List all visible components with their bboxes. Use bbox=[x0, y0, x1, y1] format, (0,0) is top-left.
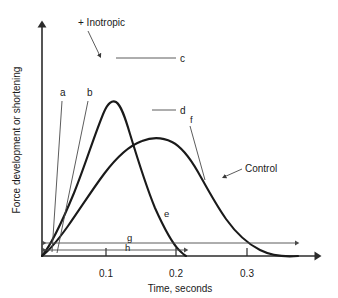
figure-container: 0.1 0.2 0.3 Time, seconds Force developm… bbox=[0, 0, 338, 298]
x-tick-label-1: 0.2 bbox=[169, 268, 183, 279]
annotation-control-label: Control bbox=[245, 163, 277, 174]
label-f: f bbox=[190, 114, 193, 125]
label-h: h bbox=[125, 242, 130, 253]
label-e: e bbox=[164, 208, 169, 219]
annotation-inotropic-label: + Inotropic bbox=[78, 17, 125, 28]
x-tick-label-0: 0.1 bbox=[99, 268, 113, 279]
force-development-chart: 0.1 0.2 0.3 Time, seconds Force developm… bbox=[0, 0, 338, 298]
x-tick-label-2: 0.3 bbox=[240, 268, 254, 279]
label-d: d bbox=[180, 105, 186, 116]
label-a: a bbox=[60, 87, 66, 98]
annotation-control-arrow bbox=[224, 169, 242, 177]
label-b: b bbox=[87, 87, 93, 98]
y-axis-title: Force development or shortening bbox=[11, 67, 22, 214]
label-b-leader bbox=[57, 101, 88, 253]
annotation-inotropic-arrow bbox=[88, 31, 100, 56]
label-c: c bbox=[180, 53, 185, 64]
x-axis-title: Time, seconds bbox=[148, 283, 213, 294]
